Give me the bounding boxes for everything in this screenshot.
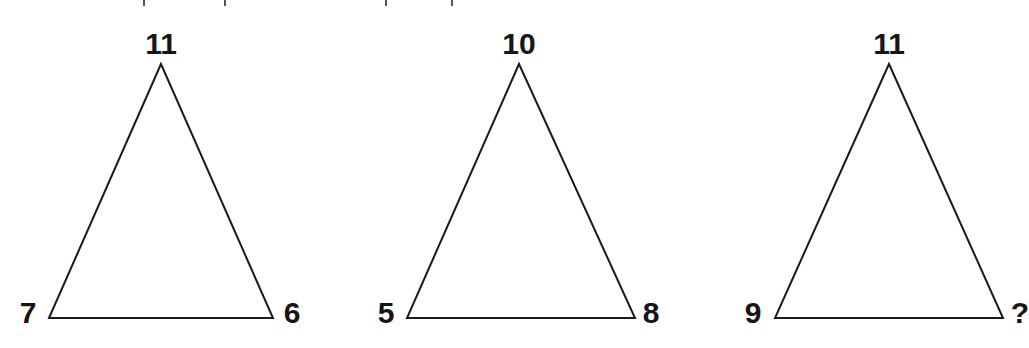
triangle-2-left-number: 5 — [378, 298, 395, 328]
triangle-3-left-number: 9 — [745, 298, 762, 328]
cutoff-mark — [224, 0, 226, 6]
triangle-3-right-unknown: ? — [1011, 298, 1029, 328]
triangle-1-right-number: 6 — [284, 298, 301, 328]
triangle-3 — [775, 64, 1003, 318]
triangle-2 — [407, 64, 635, 318]
triangle-1 — [49, 64, 273, 318]
triangle-1-top-number: 11 — [145, 29, 177, 59]
triangle-2-right-number: 8 — [643, 298, 660, 328]
triangle-3-top-number: 11 — [873, 29, 905, 59]
triangle-2-top-number: 10 — [502, 29, 535, 59]
cutoff-mark — [451, 0, 453, 6]
cutoff-mark — [143, 0, 145, 6]
triangle-1-left-number: 7 — [20, 298, 37, 328]
cutoff-mark — [385, 0, 387, 6]
